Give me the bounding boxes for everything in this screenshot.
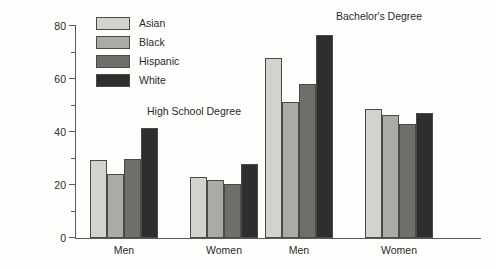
bar <box>265 58 282 238</box>
bar <box>190 177 207 238</box>
panel-title: High School Degree <box>147 105 241 117</box>
legend-item: Black <box>96 33 179 51</box>
x-axis-group-label: Men <box>289 244 309 256</box>
bar <box>399 124 416 238</box>
bar <box>90 160 107 238</box>
x-axis-line <box>75 238 481 239</box>
legend-swatch <box>96 17 130 30</box>
y-axis-tick-label: 20 <box>42 180 66 191</box>
bar <box>224 184 241 238</box>
bar <box>282 102 299 238</box>
legend-label: White <box>139 75 166 86</box>
y-axis-tick-minor <box>71 158 76 159</box>
legend-label: Black <box>139 37 165 48</box>
legend-label: Asian <box>139 18 165 29</box>
y-axis-tick-minor <box>71 211 76 212</box>
panel-title: Bachelor's Degree <box>336 10 422 22</box>
y-axis-tick-minor <box>71 105 76 106</box>
legend-swatch <box>96 55 130 68</box>
bar <box>124 159 141 239</box>
bar <box>107 174 124 238</box>
y-axis-tick-major <box>69 78 76 79</box>
x-axis-group-label: Women <box>206 244 242 256</box>
y-axis-tick-label: 0 <box>42 233 66 244</box>
x-axis-group-label: Women <box>381 244 417 256</box>
y-axis-tick-major <box>69 237 76 238</box>
bar <box>207 180 224 238</box>
y-axis-tick-minor <box>71 52 76 53</box>
y-axis-tick-label: 60 <box>42 74 66 85</box>
legend-swatch <box>96 74 130 87</box>
chart-legend: AsianBlackHispanicWhite <box>96 14 179 90</box>
bar <box>416 113 433 238</box>
y-axis-tick-label: 80 <box>42 21 66 32</box>
bar <box>299 84 316 238</box>
bar <box>241 164 258 238</box>
bar <box>365 109 382 238</box>
bar <box>141 128 158 238</box>
chart-figure: Mean annual earnings (thousands of dolla… <box>0 0 496 269</box>
y-axis-tick-major <box>69 25 76 26</box>
bar <box>316 35 333 238</box>
y-axis-tick-major <box>69 184 76 185</box>
y-axis-tick-major <box>69 131 76 132</box>
legend-item: White <box>96 71 179 89</box>
x-axis-group-label: Men <box>114 244 134 256</box>
y-axis-tick-label: 40 <box>42 127 66 138</box>
legend-label: Hispanic <box>139 56 179 67</box>
legend-item: Asian <box>96 14 179 32</box>
legend-swatch <box>96 36 130 49</box>
legend-item: Hispanic <box>96 52 179 70</box>
bar <box>382 115 399 238</box>
